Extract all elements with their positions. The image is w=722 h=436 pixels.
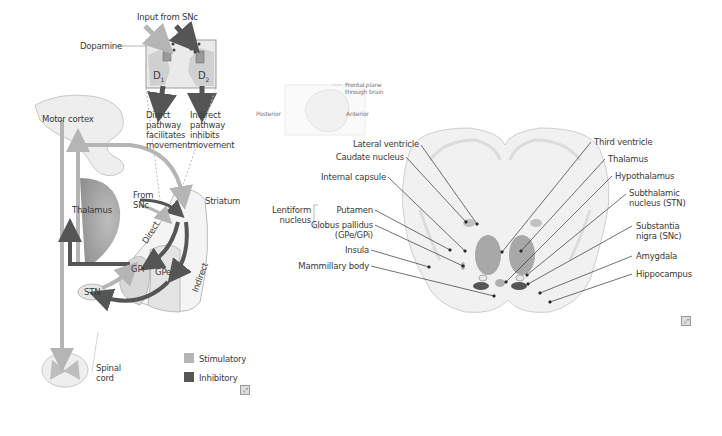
- putamen-label: Putamen: [337, 205, 373, 215]
- direct-pathway-caption: Direct pathway facilitates movement: [146, 110, 190, 150]
- gpe-label: GPe: [155, 267, 171, 277]
- from-snc-label: From SNc: [133, 190, 153, 210]
- spinal-cord-line: cord: [96, 373, 121, 383]
- spinal-cord-label: Spinal cord: [96, 363, 121, 383]
- stn-line: Subthalamic: [629, 188, 686, 198]
- legend-inhibitory-label: Inhibitory: [199, 373, 237, 383]
- d1-sub: 1: [161, 76, 165, 83]
- striatum-label: Striatum: [205, 196, 240, 206]
- caption-line: Direct: [146, 110, 190, 120]
- caption-line: Indirect: [190, 110, 234, 120]
- snc-line: nigra (SNc): [636, 231, 681, 241]
- d2-sub: 2: [206, 76, 210, 83]
- legend-inhibitory-swatch: [184, 372, 194, 382]
- from-snc-line: From: [133, 190, 153, 200]
- hippocampus-label: Hippocampus: [636, 269, 692, 279]
- caption-line: inhibits: [190, 130, 234, 140]
- lentiform-nucleus-label: Lentiform nucleus: [272, 205, 311, 225]
- from-snc-line: SNc: [133, 200, 153, 210]
- motor-cortex-label: Motor cortex: [42, 114, 94, 124]
- third-ventricle-label: Third ventricle: [594, 137, 652, 147]
- lentiform-line: nucleus: [272, 215, 311, 225]
- internal-capsule-label: Internal capsule: [321, 172, 386, 182]
- amygdala-label: Amygdala: [636, 251, 677, 261]
- caption-line: pathway: [146, 120, 190, 130]
- gpe-shape: [148, 245, 180, 312]
- stn-line: nucleus (STN): [629, 198, 686, 208]
- d2-receptor-label: D2: [198, 71, 209, 85]
- insula-label: Insula: [345, 245, 369, 255]
- lateral-ventricle-label: Lateral ventricle: [353, 139, 419, 149]
- subthalamic-nucleus-label: Subthalamic nucleus (STN): [629, 188, 686, 208]
- posterior-label: Posterior: [256, 110, 281, 117]
- globus-pallidus-line: (GPe/GPi): [311, 230, 373, 240]
- d1-text: D: [153, 70, 161, 81]
- caption-line: movement: [190, 140, 234, 150]
- d2-text: D: [198, 70, 206, 81]
- caudate-nucleus-label: Caudate nucleus: [336, 152, 404, 162]
- input-from-snc-label: Input from SNc: [137, 12, 198, 22]
- anterior-label: Anterior: [346, 110, 369, 117]
- mammillary-body-label: Mammillary body: [298, 261, 369, 271]
- d1-receptor-label: D1: [153, 71, 164, 85]
- legend-stimulatory-swatch: [184, 353, 194, 363]
- thalamus-right-label: Thalamus: [608, 154, 648, 164]
- lentiform-line: Lentiform: [272, 205, 311, 215]
- thalamus-shape: [80, 178, 120, 262]
- gpi-label: GPi: [131, 264, 144, 274]
- globus-pallidus-line: Globus pallidus: [311, 220, 373, 230]
- frontal-plane-label: Frontal plane through brain: [345, 81, 383, 95]
- substantia-nigra-label: Substantia nigra (SNc): [636, 221, 681, 241]
- spinal-cord-line: Spinal: [96, 363, 121, 373]
- indirect-pathway-caption: Indirect pathway inhibits movement: [190, 110, 234, 150]
- dopamine-label: Dopamine: [80, 41, 122, 51]
- expand-icon[interactable]: ⤢: [681, 316, 691, 326]
- frontal-plane-line: Frontal plane: [345, 81, 383, 88]
- legend-stimulatory-label: Stimulatory: [199, 354, 246, 364]
- hypothalamus-label: Hypothalamus: [615, 171, 674, 181]
- caption-line: facilitates: [146, 130, 190, 140]
- globus-pallidus-label: Globus pallidus (GPe/GPi): [311, 220, 373, 240]
- snc-line: Substantia: [636, 221, 681, 231]
- caption-line: pathway: [190, 120, 234, 130]
- caption-line: movement: [146, 140, 190, 150]
- thalamus-label: Thalamus: [72, 205, 112, 215]
- stn-label: STN: [84, 287, 100, 297]
- expand-icon[interactable]: ⤢: [240, 385, 250, 395]
- frontal-plane-line: through brain: [345, 88, 383, 95]
